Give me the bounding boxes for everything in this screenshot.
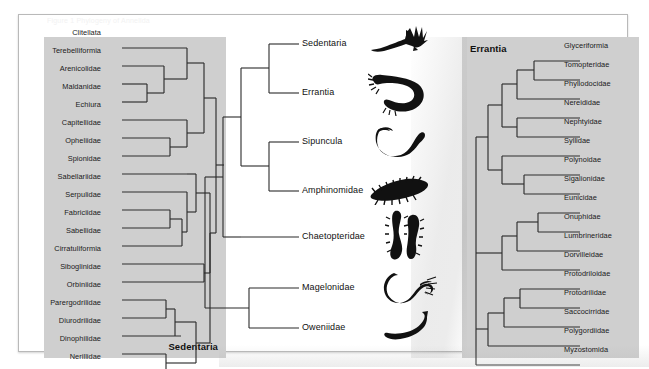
taxon-label: Saccocirridae <box>564 308 609 316</box>
center-tip-label: Sedentaria <box>302 38 347 48</box>
taxon-label: Syllidae <box>564 137 590 145</box>
taxon-label: Serpulidae <box>28 191 101 199</box>
taxon-label: Sigalionidae <box>564 175 605 183</box>
peanut-worm-silhouette <box>375 126 427 158</box>
taxon-label: Lumbrineridae <box>564 232 612 240</box>
taxon-label: Onuphidae <box>564 213 601 221</box>
taxon-label: Glyceriformia <box>564 42 608 50</box>
center-tip-label: Errantia <box>302 87 334 97</box>
center-tip-label: Oweniidae <box>302 322 345 332</box>
taxon-label: Maldanidae <box>28 83 101 91</box>
taxon-label: Nephtyidae <box>564 118 602 126</box>
taxon-label: Polynoidae <box>564 156 601 164</box>
taxon-label: Opheliidae <box>28 137 101 145</box>
taxon-label: Terebelliformia <box>28 47 101 55</box>
taxon-label: Nerillidae <box>28 353 101 361</box>
taxon-label: Siboglinidae <box>28 263 101 271</box>
taxon-label: Clitellata <box>28 29 101 37</box>
taxon-label: Cirratuliformia <box>28 245 101 253</box>
oweniid-silhouette <box>382 311 438 343</box>
taxon-label: Spionidae <box>28 155 101 163</box>
taxon-label: Eunicidae <box>564 194 597 202</box>
taxon-label: Sabellariidae <box>28 173 101 181</box>
fireworm-silhouette <box>368 175 430 205</box>
chaetopterid-silhouette <box>385 209 425 263</box>
taxon-label: Myzostomida <box>564 346 608 354</box>
magelonid-silhouette <box>380 270 438 306</box>
taxon-label: Dorvilleidae <box>564 251 603 259</box>
taxon-label: Capitellidae <box>28 119 101 127</box>
bristle-worm-silhouette <box>368 72 430 116</box>
taxon-label: Dinophilidae <box>28 335 101 343</box>
taxon-label: Tomopteridae <box>564 61 609 69</box>
taxon-label: Arenicolidae <box>28 65 101 73</box>
figure-frame: Figure 1 Phylogeny of Annelida Sedentari… <box>18 14 628 352</box>
taxon-label: Phyllodocidae <box>564 80 611 88</box>
taxon-label: Polygordiidae <box>564 327 609 335</box>
center-tip-label: Chaetopteridae <box>302 231 365 241</box>
taxon-label: Protodriloidae <box>564 270 610 278</box>
fan-worm-silhouette <box>370 24 428 64</box>
taxon-label: Echiura <box>28 101 101 109</box>
center-tip-label: Sipuncula <box>302 136 342 146</box>
taxon-label: Diurodrilidae <box>28 317 101 325</box>
taxon-label: Nereididae <box>564 99 600 107</box>
errantia-panel: Errantia <box>462 37 639 358</box>
taxon-label: Orbiniidae <box>28 281 101 289</box>
errantia-cladogram <box>462 37 639 358</box>
center-tip-label: Magelonidae <box>302 282 355 292</box>
taxon-label: Sabellidae <box>28 227 101 235</box>
center-tip-label: Amphinomidae <box>302 185 363 195</box>
taxon-label: Fabriciidae <box>28 209 101 217</box>
taxon-label: Protodrilidae <box>564 289 606 297</box>
taxon-label: Parergodrilidae <box>28 299 101 307</box>
